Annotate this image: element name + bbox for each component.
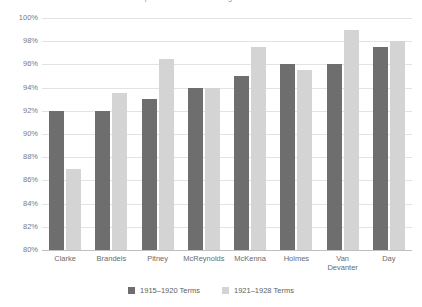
x-axis-tick-label: Brandeis bbox=[88, 254, 134, 263]
bar[interactable] bbox=[280, 64, 295, 250]
y-axis-tick-label: 84% bbox=[2, 200, 38, 208]
bar[interactable] bbox=[142, 99, 157, 250]
x-axis-tick-label: Day bbox=[366, 254, 412, 263]
bar[interactable] bbox=[188, 88, 203, 250]
y-axis-tick-label: 94% bbox=[2, 84, 38, 92]
y-axis-tick-label: 86% bbox=[2, 176, 38, 184]
y-axis-tick-label: 98% bbox=[2, 37, 38, 45]
bar-group bbox=[135, 18, 181, 250]
x-axis-tick-label: Holmes bbox=[273, 254, 319, 263]
bar[interactable] bbox=[251, 47, 266, 250]
bar-group bbox=[88, 18, 134, 250]
bar[interactable] bbox=[112, 93, 127, 250]
bar[interactable] bbox=[390, 41, 405, 250]
x-axis-tick-label: McKenna bbox=[227, 254, 273, 263]
chart-legend: 1915–1920 Terms1921–1928 Terms bbox=[0, 286, 422, 295]
bar-group bbox=[42, 18, 88, 250]
x-axis-tick-label: Clarke bbox=[42, 254, 88, 263]
y-axis: 80%82%84%86%88%90%92%94%96%98%100% bbox=[0, 18, 38, 250]
bar[interactable] bbox=[95, 111, 110, 250]
y-axis-tick-label: 80% bbox=[2, 246, 38, 254]
legend-label: 1915–1920 Terms bbox=[140, 286, 200, 295]
y-axis-tick-label: 92% bbox=[2, 107, 38, 115]
bar-group bbox=[273, 18, 319, 250]
bar-group bbox=[181, 18, 227, 250]
legend-item[interactable]: 1915–1920 Terms bbox=[128, 286, 200, 295]
x-axis-tick-label: Pitney bbox=[135, 254, 181, 263]
bar[interactable] bbox=[344, 30, 359, 250]
bar[interactable] bbox=[205, 88, 220, 250]
bar-chart: Supreme Court Justice Agreement Rates 80… bbox=[0, 0, 422, 307]
bar[interactable] bbox=[297, 70, 312, 250]
plot-area bbox=[42, 18, 412, 250]
y-axis-tick-label: 100% bbox=[2, 14, 38, 22]
x-axis-tick-label: Van Devanter bbox=[320, 254, 366, 272]
y-axis-tick-label: 82% bbox=[2, 223, 38, 231]
bar[interactable] bbox=[234, 76, 249, 250]
gridline bbox=[42, 250, 412, 251]
legend-label: 1921–1928 Terms bbox=[234, 286, 294, 295]
bar[interactable] bbox=[159, 59, 174, 250]
bar[interactable] bbox=[327, 64, 342, 250]
y-axis-tick-label: 90% bbox=[2, 130, 38, 138]
bar-group bbox=[320, 18, 366, 250]
bar[interactable] bbox=[49, 111, 64, 250]
legend-item[interactable]: 1921–1928 Terms bbox=[222, 286, 294, 295]
legend-swatch-icon bbox=[222, 287, 229, 294]
bar[interactable] bbox=[373, 47, 388, 250]
bar-group bbox=[366, 18, 412, 250]
chart-title: Supreme Court Justice Agreement Rates bbox=[0, 0, 422, 2]
x-axis-tick-label: McReynolds bbox=[181, 254, 227, 263]
y-axis-tick-label: 88% bbox=[2, 153, 38, 161]
legend-swatch-icon bbox=[128, 287, 135, 294]
y-axis-tick-label: 96% bbox=[2, 60, 38, 68]
bar[interactable] bbox=[66, 169, 81, 250]
bar-group bbox=[227, 18, 273, 250]
